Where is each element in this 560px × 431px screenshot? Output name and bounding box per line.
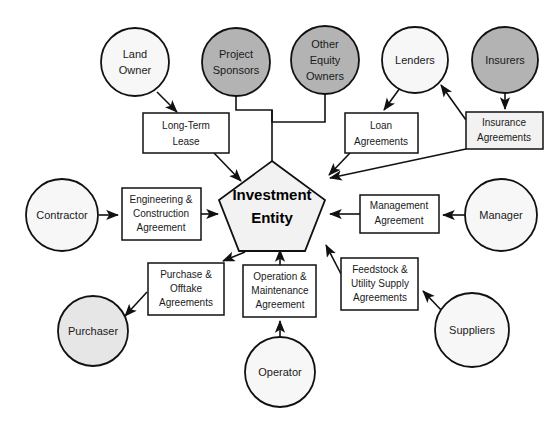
party-label-line: Insurers [485, 54, 525, 66]
agreement-label-line: Utility Supply [351, 278, 409, 289]
party-label-line: Sponsors [213, 64, 260, 76]
agreement-label-line: Engineering & [130, 194, 193, 205]
party-label-line: Contractor [36, 209, 88, 221]
agreement-label-line: Purchase & [160, 269, 212, 280]
center-label-line1: Investment [232, 186, 311, 203]
agreement-label-line: Agreements [159, 297, 213, 308]
party-label-line: Project [219, 48, 253, 60]
agreement-label-line: Agreement [137, 222, 186, 233]
agreement-label-line: Loan [370, 120, 392, 131]
party-other-equity-owners[interactable]: Other Equity Owners [291, 26, 359, 94]
agreement-management[interactable]: Management Agreement [360, 195, 439, 233]
party-label-line: Suppliers [449, 324, 495, 336]
party-circle [101, 28, 169, 96]
agreement-label-line: Insurance [482, 117, 526, 128]
party-operator[interactable]: Operator [245, 337, 315, 407]
party-circle [202, 28, 270, 96]
party-label-line: Equity [310, 54, 341, 66]
party-suppliers[interactable]: Suppliers [435, 293, 509, 367]
agreement-feedstock-utility-supply[interactable]: Feedstock & Utility Supply Agreements [341, 258, 418, 310]
party-contractor[interactable]: Contractor [26, 179, 98, 251]
party-insurers[interactable]: Insurers [472, 27, 538, 93]
party-label-line: Owners [306, 70, 344, 82]
agreement-engineering-construction[interactable]: Engineering & Construction Agreement [122, 188, 201, 240]
party-purchaser[interactable]: Purchaser [58, 296, 128, 366]
party-label-line: Other [311, 38, 339, 50]
project-structure-diagram: Investment Entity Land Owner Project Spo… [0, 0, 560, 431]
agreement-label-line: Operation & [253, 271, 307, 282]
party-land-owner[interactable]: Land Owner [101, 28, 169, 96]
party-lenders[interactable]: Lenders [382, 27, 448, 93]
party-label-line: Manager [479, 209, 523, 221]
party-label-line: Land [123, 48, 147, 60]
agreement-label-line: Agreements [477, 132, 531, 143]
agreement-long-term-lease[interactable]: Long-Term Lease [143, 113, 229, 153]
agreement-purchase-offtake[interactable]: Purchase & Offtake Agreements [148, 263, 224, 315]
party-label-line: Lenders [395, 54, 435, 66]
party-project-sponsors[interactable]: Project Sponsors [202, 28, 270, 96]
center-label-line2: Entity [251, 209, 293, 226]
agreement-insurance-agreements[interactable]: Insurance Agreements [466, 112, 543, 149]
agreement-label-line: Management [370, 200, 429, 211]
agreement-operation-maintenance[interactable]: Operation & Maintenance Agreement [243, 265, 316, 317]
party-label-line: Owner [119, 64, 152, 76]
party-label-line: Purchaser [68, 325, 118, 337]
agreement-label-line: Agreements [354, 136, 408, 147]
agreement-label-line: Offtake [170, 283, 202, 294]
party-manager[interactable]: Manager [465, 179, 537, 251]
party-label-line: Operator [258, 366, 302, 378]
agreement-label-line: Agreements [353, 292, 407, 303]
agreement-label-line: Agreement [256, 299, 305, 310]
agreement-label-line: Long-Term [162, 120, 210, 131]
agreement-loan-agreements[interactable]: Loan Agreements [345, 113, 418, 153]
agreement-label-line: Construction [133, 208, 189, 219]
agreement-label-line: Feedstock & [352, 264, 408, 275]
agreement-label-line: Agreement [375, 215, 424, 226]
agreement-label-line: Lease [172, 136, 200, 147]
agreement-label-line: Maintenance [251, 285, 309, 296]
